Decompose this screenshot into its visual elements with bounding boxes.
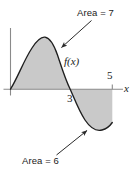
x-tick-label-3: 3 [67, 93, 73, 104]
area-positive-label: Area = 7 [77, 8, 114, 18]
shaded-region-negative [70, 89, 112, 130]
shaded-region-positive [11, 37, 71, 89]
area-negative-label: Area = 6 [22, 156, 59, 166]
function-label: f(x) [64, 56, 79, 67]
annotation-arrow-area-7 [62, 21, 92, 48]
integral-area-figure [0, 0, 135, 176]
x-axis-label: x [124, 83, 129, 94]
x-tick-label-5: 5 [107, 70, 113, 81]
annotation-arrow-area-6 [57, 131, 88, 156]
